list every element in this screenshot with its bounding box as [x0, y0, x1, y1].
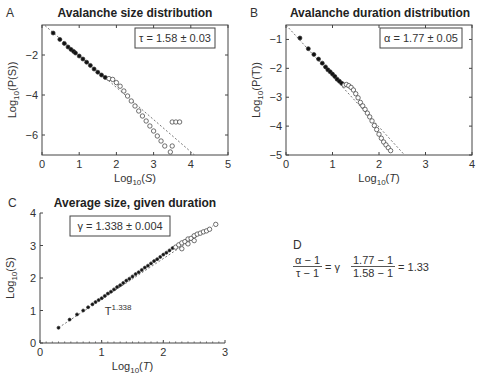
x-tick-label: 3 [422, 158, 428, 170]
open-data-point [354, 92, 358, 96]
open-data-point [370, 119, 374, 123]
panel-d: D α − 1 τ − 1 = γ 1.77 − 1 1.58 − 1 = 1.… [293, 238, 429, 279]
open-data-point [155, 134, 159, 138]
filled-data-point [94, 301, 97, 304]
equals-result: = 1.33 [398, 261, 429, 273]
fit-label: T1.338 [105, 303, 132, 317]
open-data-point [110, 77, 114, 81]
x-tick-label: 1 [329, 158, 335, 170]
open-data-point [192, 238, 196, 242]
filled-data-point [81, 57, 85, 61]
filled-data-point [96, 70, 100, 74]
filled-data-point [143, 266, 146, 269]
y-tick-label: −3 [269, 91, 282, 103]
open-data-point [356, 96, 360, 100]
y-tick-label: −2 [269, 62, 282, 74]
filled-data-point [134, 273, 137, 276]
open-data-point [368, 115, 372, 119]
filled-data-point [57, 326, 60, 329]
open-data-point [151, 129, 155, 133]
filled-data-point [165, 251, 168, 254]
filled-data-point [76, 313, 79, 316]
open-data-point [118, 84, 122, 88]
equals-gamma: = γ [325, 261, 340, 273]
filled-data-point [113, 288, 116, 291]
rhs-fraction: 1.77 − 1 1.58 − 1 [351, 254, 395, 279]
filled-data-point [146, 264, 149, 267]
x-tick-label: 3 [151, 158, 157, 170]
filled-data-point [116, 286, 119, 289]
y-tick-label: −1 [269, 33, 282, 45]
filled-data-point [62, 41, 66, 45]
x-tick-label: 5 [225, 158, 231, 170]
lhs-numerator: α − 1 [293, 254, 322, 267]
x-axis-label: Log10(T) [112, 360, 153, 375]
open-data-point [129, 99, 133, 103]
scaling-relation-equation: α − 1 τ − 1 = γ 1.77 − 1 1.58 − 1 = 1.33 [293, 254, 429, 279]
figure-canvas: AAvalanche size distribution012345−2−4−6… [0, 0, 479, 380]
y-axis-label: Log10(S) [4, 257, 19, 299]
filled-data-point [100, 73, 104, 77]
filled-data-point [317, 57, 321, 61]
exponent-annotation: τ = 1.58 ± 0.03 [139, 32, 211, 44]
filled-data-point [156, 258, 159, 261]
filled-data-point [92, 67, 96, 71]
x-tick-label: 4 [188, 158, 194, 170]
filled-data-point [128, 277, 131, 280]
open-data-point [388, 148, 392, 152]
filled-data-point [77, 54, 81, 58]
x-tick-label: 3 [222, 346, 228, 358]
filled-data-point [125, 279, 128, 282]
chart-panel-c: CAverage size, given duration012301234γ … [4, 196, 228, 375]
open-data-point [114, 80, 118, 84]
filled-data-point [106, 292, 109, 295]
open-data-point [125, 94, 129, 98]
chart-title: Avalanche duration distribution [290, 6, 470, 20]
x-tick-label: 0 [283, 158, 289, 170]
filled-data-point [298, 36, 302, 40]
filled-data-point [58, 37, 62, 41]
filled-data-point [140, 268, 143, 271]
filled-data-point [109, 290, 112, 293]
exponent-annotation: γ = 1.338 ± 0.004 [77, 220, 162, 232]
open-data-point [177, 120, 181, 124]
open-data-point [207, 227, 211, 231]
lhs-fraction: α − 1 τ − 1 [293, 254, 322, 279]
y-tick-label: 3 [30, 240, 36, 252]
lhs-denominator: τ − 1 [294, 267, 321, 279]
filled-data-point [100, 297, 103, 300]
x-tick-label: 2 [376, 158, 382, 170]
chart-title: Avalanche size distribution [58, 6, 213, 20]
open-data-point [137, 109, 141, 113]
filled-data-point [150, 262, 153, 265]
x-tick-label: 2 [160, 346, 166, 358]
x-tick-label: 1 [76, 158, 82, 170]
x-tick-label: 0 [39, 158, 45, 170]
filled-data-point [85, 60, 89, 64]
chart-panel-a: AAvalanche size distribution012345−2−4−6… [6, 6, 231, 187]
y-axis-label: Log10(P(S)) [6, 62, 21, 119]
panel-d-letter: D [293, 238, 429, 252]
open-data-point [144, 119, 148, 123]
x-tick-label: 1 [99, 346, 105, 358]
open-data-point [377, 132, 381, 136]
x-axis-label: Log10(T) [358, 172, 399, 187]
open-data-point [122, 89, 126, 93]
filled-data-point [73, 51, 77, 55]
open-data-point [148, 124, 152, 128]
x-tick-label: 0 [37, 346, 43, 358]
filled-data-point [320, 61, 324, 65]
open-data-point [170, 144, 174, 148]
filled-data-point [122, 281, 125, 284]
filled-data-point [137, 271, 140, 274]
open-data-point [159, 139, 163, 143]
filled-data-point [82, 309, 85, 312]
open-data-point [372, 123, 376, 127]
power-law-fit-line [59, 226, 213, 328]
filled-data-point [87, 306, 90, 309]
x-axis-label: Log10(S) [114, 172, 156, 187]
y-tick-label: −4 [25, 89, 38, 101]
chart-panel-b: BAvalanche duration distribution01234−1−… [250, 6, 475, 187]
y-tick-label: −2 [25, 49, 38, 61]
panel-letter: C [8, 196, 17, 210]
